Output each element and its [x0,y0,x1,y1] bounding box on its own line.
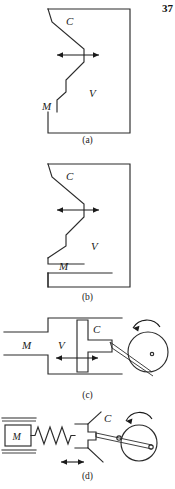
figure-panel-a: C M V [0,0,175,140]
label-cam-b: C [66,170,74,182]
label-valve-b: V [91,240,99,252]
travel-arrow-b [57,207,99,213]
figure-panel-c: M V C [0,312,175,402]
mass-block-b [48,273,112,287]
travel-arrow-d [61,459,84,465]
crank-disc-d [121,425,157,461]
rotation-arrow-c [133,320,160,331]
caption-a: (a) [0,135,175,145]
figure-page: 37 C M V (a) [0,0,175,489]
crank-disc-c [128,332,168,372]
label-cam-c: C [93,323,101,335]
label-cam-a: C [66,15,74,27]
caption-b: (b) [0,292,175,302]
caption-c: (c) [0,390,175,400]
label-valve-a: V [89,87,97,99]
label-valve-c: V [58,339,66,351]
label-mass-d: M [12,431,22,442]
label-mass-b: M [58,260,69,272]
rotation-arrow-d [126,412,152,424]
spring-d [31,427,75,444]
follower-c-d [75,424,96,448]
label-mass-a: M [41,100,52,112]
figure-panel-b: C V M [0,160,175,300]
label-mass-c: M [21,339,32,351]
crank-pin-c [150,352,153,355]
connecting-rod-c [110,342,153,376]
caption-d: (d) [0,471,175,481]
connecting-rod-d [96,433,153,449]
valve-housing-a [48,9,130,133]
travel-arrow-a [57,52,99,58]
label-cam-d: C [104,412,112,424]
